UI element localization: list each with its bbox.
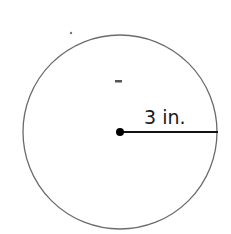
stray-mark bbox=[70, 32, 72, 34]
circle-diagram: 3 in. bbox=[0, 0, 231, 234]
stray-dash bbox=[115, 80, 122, 83]
center-point bbox=[116, 128, 124, 136]
radius-label: 3 in. bbox=[144, 106, 186, 128]
